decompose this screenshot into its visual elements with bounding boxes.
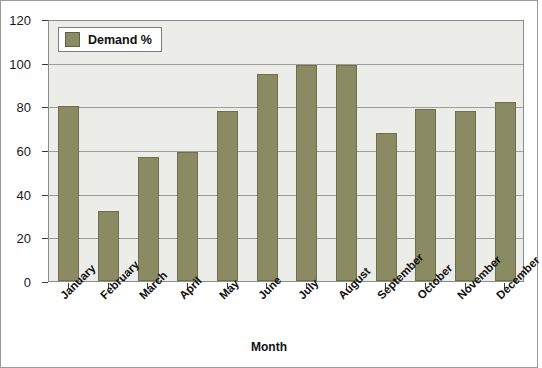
gridline-100 xyxy=(49,64,523,65)
y-tick-label-100: 100 xyxy=(9,56,31,71)
gridline-120 xyxy=(49,20,523,21)
bar-september xyxy=(376,133,397,281)
y-axis: 020406080100120 xyxy=(1,1,41,301)
y-tick-label-20: 20 xyxy=(17,231,31,246)
gridline-60 xyxy=(49,151,523,152)
x-axis-title: Month xyxy=(1,340,537,354)
gridline-40 xyxy=(49,195,523,196)
gridline-80 xyxy=(49,107,523,108)
y-tick-mark-0 xyxy=(42,282,48,283)
legend-swatch-demand xyxy=(65,32,80,47)
bar-august xyxy=(336,65,357,281)
bar-june xyxy=(257,74,278,281)
bar-january xyxy=(58,106,79,281)
bar-february xyxy=(98,211,119,281)
y-tick-label-0: 0 xyxy=(24,275,31,290)
legend: Demand % xyxy=(58,27,162,52)
bar-november xyxy=(455,111,476,281)
bar-december xyxy=(495,102,516,281)
bar-april xyxy=(177,152,198,281)
y-tick-label-120: 120 xyxy=(9,13,31,28)
legend-label-demand: Demand % xyxy=(88,33,152,47)
bar-may xyxy=(217,111,238,281)
plot-area xyxy=(48,20,524,282)
y-tick-label-80: 80 xyxy=(17,100,31,115)
y-tick-label-60: 60 xyxy=(17,144,31,159)
bar-march xyxy=(138,157,159,281)
bar-july xyxy=(296,65,317,281)
y-tick-label-40: 40 xyxy=(17,187,31,202)
gridline-20 xyxy=(49,238,523,239)
